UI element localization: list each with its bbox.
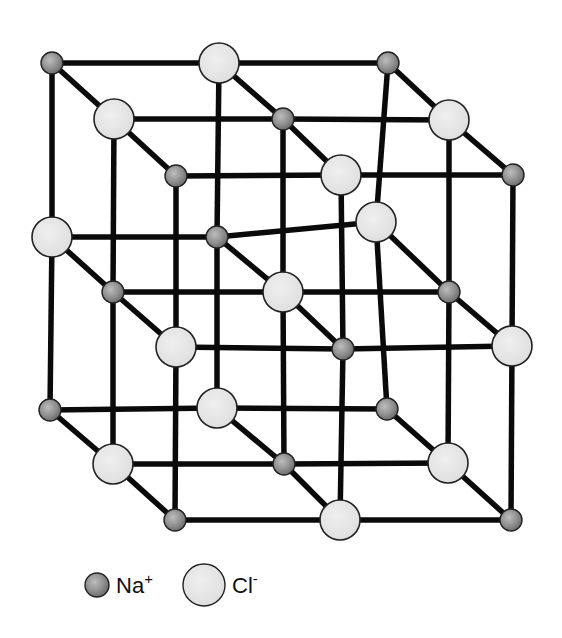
legend: Na+Cl- [85, 564, 258, 606]
bond-line [284, 463, 448, 464]
bond-line [340, 349, 343, 520]
legend-chloride-swatch [183, 564, 225, 606]
chloride-ion [263, 272, 303, 312]
legend-chloride-label: Cl- [232, 570, 258, 598]
sodium-ion [377, 52, 399, 74]
nacl-lattice-diagram: Na+Cl- [0, 0, 562, 638]
bond-line [283, 119, 449, 120]
sodium-ion [39, 399, 61, 421]
sodium-ion [165, 165, 187, 187]
chloride-ion [93, 444, 133, 484]
chloride-ion [199, 43, 239, 83]
bond-line [217, 222, 376, 237]
chloride-ion [156, 327, 196, 367]
chloride-ion [197, 388, 237, 428]
chloride-ion [429, 100, 469, 140]
bond-line [50, 237, 52, 410]
bond-line [341, 175, 343, 349]
bond-line [448, 292, 449, 463]
bond-line [50, 408, 217, 410]
bond-line [376, 63, 388, 222]
bond-line [343, 346, 512, 349]
bond-line [113, 119, 114, 292]
bond-line [512, 175, 513, 346]
sodium-ion [438, 281, 460, 303]
bond-line [217, 63, 219, 237]
chloride-ion [320, 500, 360, 540]
sodium-ion [376, 398, 398, 420]
bond-line [376, 222, 387, 409]
sodium-ion [272, 108, 294, 130]
legend-sodium-swatch [85, 573, 109, 597]
sodium-ion [41, 52, 63, 74]
sodium-ion [502, 164, 524, 186]
bond-line [511, 346, 512, 520]
bond-line [175, 347, 176, 520]
chloride-ion [321, 155, 361, 195]
bond-line [176, 347, 343, 349]
sodium-ion [164, 509, 186, 531]
chloride-ion [94, 99, 134, 139]
sodium-ion [332, 338, 354, 360]
charge-superscript: + [144, 570, 153, 587]
sodium-ion [206, 226, 228, 248]
bond-line [217, 408, 387, 409]
bond-line [176, 175, 341, 176]
legend-sodium-label: Na+ [116, 570, 153, 598]
chloride-ion [356, 202, 396, 242]
sodium-ion [102, 281, 124, 303]
sodium-ion [500, 509, 522, 531]
chloride-ion [492, 326, 532, 366]
chloride-ion [428, 443, 468, 483]
lattice-ions [32, 43, 532, 540]
charge-superscript: - [253, 570, 258, 587]
chloride-ion [32, 217, 72, 257]
sodium-ion [273, 453, 295, 475]
bond-line [283, 292, 284, 464]
